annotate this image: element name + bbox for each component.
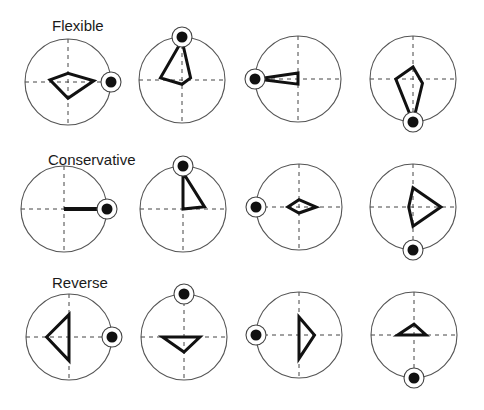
target-marker-dot xyxy=(178,161,189,172)
target-marker-dot xyxy=(250,74,261,85)
target-marker-dot xyxy=(251,330,262,341)
response-polygon xyxy=(163,337,200,352)
plot-reverse-4 xyxy=(371,292,457,388)
target-marker-dot xyxy=(107,332,118,343)
plot-conservative-4 xyxy=(370,164,456,260)
plot-flexible-2 xyxy=(139,27,225,123)
target-marker-dot xyxy=(408,117,419,128)
response-polygon xyxy=(47,315,69,361)
plot-flexible-1 xyxy=(25,39,121,125)
response-polygon xyxy=(183,172,205,209)
target-marker-dot xyxy=(179,289,190,300)
target-marker-dot xyxy=(409,373,420,384)
plot-flexible-4 xyxy=(370,36,456,132)
response-polygon xyxy=(398,324,426,335)
target-marker-dot xyxy=(102,204,113,215)
target-marker-dot xyxy=(106,77,117,88)
target-marker-dot xyxy=(251,202,262,213)
plot-reverse-2 xyxy=(141,284,227,380)
plot-reverse-1 xyxy=(26,294,122,380)
row-label-reverse: Reverse xyxy=(52,274,108,291)
plot-conservative-1 xyxy=(21,166,117,252)
response-polygon xyxy=(288,200,316,213)
target-marker-dot xyxy=(408,245,419,256)
strategy-glyph-diagram: Flexible Conservative Reverse xyxy=(0,0,484,410)
row-label-conservative: Conservative xyxy=(48,151,136,168)
plot-flexible-3 xyxy=(245,36,341,122)
response-polygon xyxy=(299,317,314,359)
plot-conservative-2 xyxy=(140,156,226,252)
row-label-flexible: Flexible xyxy=(52,17,104,34)
plot-conservative-3 xyxy=(246,164,342,250)
plot-reverse-3 xyxy=(246,292,342,378)
target-marker-dot xyxy=(177,32,188,43)
response-polygon xyxy=(50,73,94,98)
response-polygon xyxy=(161,40,191,84)
plots-grid xyxy=(21,27,457,388)
